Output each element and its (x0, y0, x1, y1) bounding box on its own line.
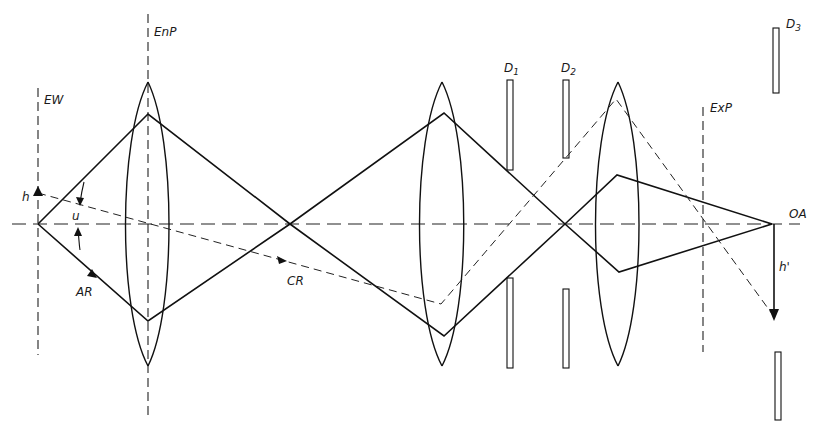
label-d3: D3 (786, 17, 801, 33)
label-h: h (22, 190, 30, 204)
label-enp: EnP (154, 25, 177, 39)
label-d1: D1 (504, 61, 519, 77)
optical-diagram: EW EnP ExP OA AR CR h h' u D1 D2 D3 (0, 0, 829, 427)
label-cr: CR (287, 274, 304, 288)
aperture-ray-arrow-icon (87, 269, 97, 278)
label-ar: AR (75, 285, 93, 299)
label-u: u (72, 209, 80, 223)
label-exp: ExP (710, 101, 733, 115)
label-d2: D2 (561, 61, 576, 77)
object-height-arrow-icon (33, 186, 43, 196)
label-oa: OA (789, 207, 807, 221)
label-h-prime: h' (779, 260, 790, 274)
chief-ray-arrow-icon (277, 256, 287, 264)
label-ew: EW (44, 93, 65, 107)
image-height-arrow-icon (769, 309, 779, 321)
